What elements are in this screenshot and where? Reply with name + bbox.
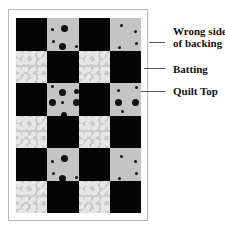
quilt-block-black (16, 148, 47, 181)
dot (135, 86, 138, 89)
dot (135, 42, 138, 45)
dot (120, 155, 123, 158)
dot (134, 160, 137, 163)
quilt-block-dots (110, 18, 141, 51)
dot (51, 28, 54, 31)
quilt-top-label: Quilt Top (173, 85, 218, 97)
dot (52, 40, 55, 43)
quilt-block-black (79, 148, 110, 181)
quilt-block-dots (110, 83, 141, 116)
dot (61, 25, 68, 32)
quilt-block-bubbles (79, 181, 110, 214)
dot (61, 155, 68, 162)
batting-label: Batting (173, 63, 208, 75)
quilt-block-dots (110, 148, 141, 181)
quilt-block-black (47, 181, 78, 214)
quilt-block-black (16, 18, 47, 51)
quilt-block-dots (47, 83, 78, 116)
dot (49, 99, 56, 106)
quilt-block-bubbles (16, 181, 47, 214)
quilt-block-black (79, 83, 110, 116)
quilt-block-black (47, 51, 78, 84)
backing-leader-line (149, 42, 165, 43)
dot (121, 110, 124, 113)
quilt-block-black (47, 116, 78, 149)
quilt-block-bubbles (16, 51, 47, 84)
dot (132, 99, 139, 106)
quilt-block-black (16, 83, 47, 116)
quilt-block-black (79, 18, 110, 51)
quilt-block-black (110, 181, 141, 214)
backing-label-line1: Wrong side (173, 25, 225, 37)
dot (51, 85, 54, 88)
batting-leader-line (144, 68, 165, 69)
quilt-block-bubbles (79, 116, 110, 149)
quilt-block-bubbles (79, 51, 110, 84)
quilt-top-grid (16, 18, 141, 213)
dot (134, 30, 137, 33)
dot (135, 172, 138, 175)
dot (118, 46, 121, 49)
quilt-block-black (110, 51, 141, 84)
quilt-block-dots (47, 18, 78, 51)
backing-label: Wrong side of backing (173, 25, 225, 49)
quilt-block-black (110, 116, 141, 149)
quilt-top-leader-line (141, 91, 165, 92)
dot (115, 99, 122, 106)
quilt-block-bubbles (16, 116, 47, 149)
dot (59, 89, 66, 96)
backing-label-line2: of backing (173, 37, 225, 49)
dot (61, 101, 64, 104)
dot (117, 89, 120, 92)
dot (52, 172, 55, 175)
dot (51, 160, 54, 163)
dot (59, 43, 66, 50)
dot (120, 24, 123, 27)
quilt-block-dots (47, 148, 78, 181)
